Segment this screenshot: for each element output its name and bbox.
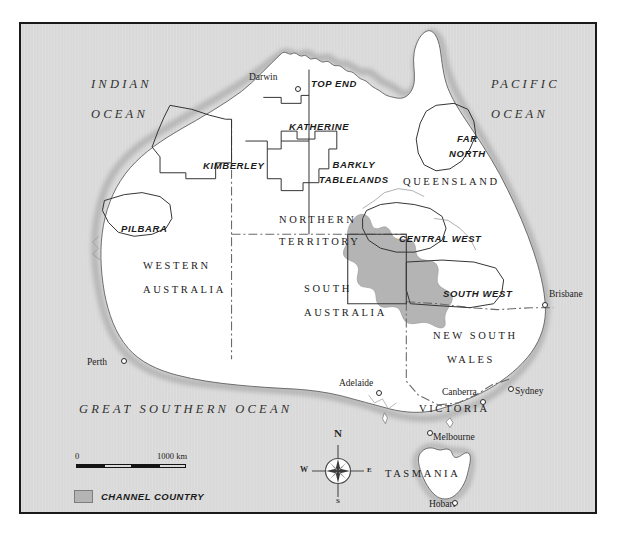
scale-label-start: 0 — [75, 451, 79, 461]
city-label-melbourne: Melbourne — [433, 432, 475, 442]
scale-seg-1 — [76, 464, 104, 468]
state-label-nsw-line1: NEW SOUTH — [433, 324, 518, 348]
state-label-tasmania: TASMANIA — [385, 468, 460, 479]
city-dot-sydney — [508, 386, 514, 392]
compass-label-south: S — [336, 497, 340, 505]
state-label-nt-line2: TERRITORY — [279, 231, 361, 253]
region-label-south-west: SOUTH WEST — [443, 288, 512, 299]
city-dot-adelaide — [376, 390, 382, 396]
region-label-kimberley: KIMBERLEY — [203, 160, 264, 171]
state-label-victoria: VICTORIA — [419, 403, 490, 414]
ocean-label-pacific: PACIFIC OCEAN — [491, 69, 560, 129]
ocean-label-pacific-line1: PACIFIC — [491, 69, 560, 99]
city-label-canberra: Canberra — [442, 387, 477, 397]
region-label-top-end: TOP END — [311, 78, 357, 89]
compass-label-west: W — [300, 465, 308, 474]
compass-label-east: E — [367, 466, 372, 474]
scale-label-end: 1000 km — [157, 451, 187, 461]
scale-tick-1 — [104, 464, 105, 468]
ocean-label-indian-line1: INDIAN — [91, 69, 152, 99]
region-label-barkly-line1: BARKLY — [319, 157, 389, 172]
region-label-far-north-line2: NORTH — [449, 146, 486, 161]
scale-seg-3 — [131, 464, 159, 468]
city-dot-perth — [121, 358, 127, 364]
compass-label-north: N — [334, 427, 342, 439]
region-label-far-north: FAR NORTH — [449, 131, 486, 161]
compass-rose: N E S W — [298, 431, 378, 511]
state-label-south-australia: SOUTH AUSTRALIA — [304, 277, 387, 325]
city-label-sydney: Sydney — [515, 386, 544, 396]
state-label-northern-territory: NORTHERN TERRITORY — [279, 209, 361, 253]
ocean-label-indian: INDIAN OCEAN — [91, 69, 152, 129]
scale-tick-2 — [131, 464, 132, 468]
city-dot-melbourne — [427, 430, 433, 436]
map-figure: INDIAN OCEAN PACIFIC OCEAN GREAT SOUTHER… — [19, 22, 597, 514]
state-label-western-australia: WESTERN AUSTRALIA — [143, 254, 226, 302]
state-label-sa-line2: AUSTRALIA — [304, 301, 387, 325]
city-dot-hobart — [452, 500, 458, 506]
ocean-label-indian-line2: OCEAN — [91, 99, 152, 129]
region-label-barkly-tablelands: BARKLY TABLELANDS — [319, 157, 389, 187]
legend-label-channel-country: CHANNEL COUNTRY — [101, 491, 204, 502]
region-label-barkly-line2: TABLELANDS — [319, 172, 389, 187]
region-label-far-north-line1: FAR — [449, 131, 486, 146]
city-dot-brisbane — [542, 302, 548, 308]
ocean-label-great-southern: GREAT SOUTHERN OCEAN — [79, 402, 292, 417]
state-label-sa-line1: SOUTH — [304, 277, 387, 301]
city-label-perth: Perth — [87, 357, 107, 367]
region-label-pilbara: PILBARA — [121, 223, 167, 234]
state-label-nsw-line2: WALES — [447, 348, 518, 372]
city-dot-canberra — [480, 399, 486, 405]
scale-tick-3 — [159, 464, 160, 468]
city-label-brisbane: Brisbane — [549, 289, 583, 299]
state-label-wa-line2: AUSTRALIA — [143, 278, 226, 302]
city-label-darwin: Darwin — [249, 72, 278, 82]
city-dot-darwin — [295, 86, 301, 92]
state-label-nt-line1: NORTHERN — [279, 209, 361, 231]
region-label-katherine: KATHERINE — [289, 121, 349, 132]
legend-swatch-channel-country — [74, 490, 93, 503]
state-label-wa-line1: WESTERN — [143, 254, 226, 278]
region-label-central-west: CENTRAL WEST — [399, 233, 482, 244]
ocean-label-pacific-line2: OCEAN — [491, 99, 560, 129]
state-label-new-south-wales: NEW SOUTH WALES — [433, 324, 518, 372]
city-label-adelaide: Adelaide — [339, 378, 373, 388]
state-label-queensland: QUEENSLAND — [403, 176, 500, 187]
